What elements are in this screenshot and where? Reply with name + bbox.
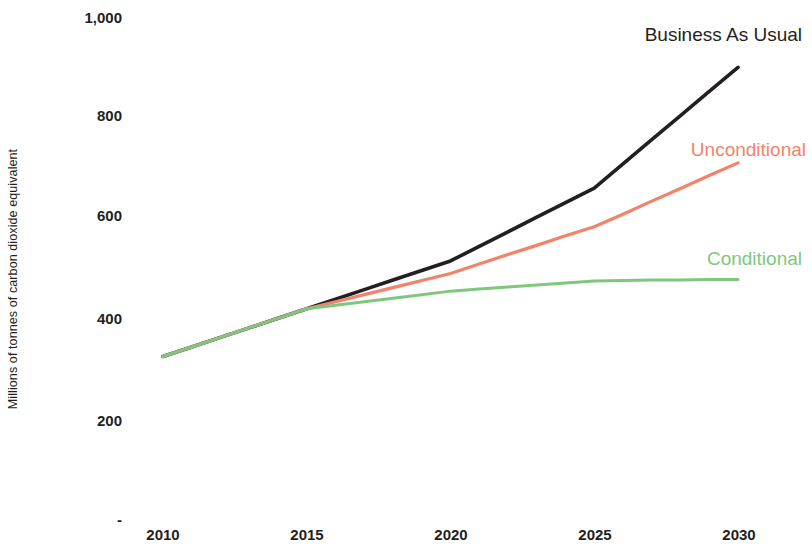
series-lines-svg bbox=[0, 0, 812, 558]
series-line-business-as-usual bbox=[163, 67, 738, 356]
emissions-line-chart: Millions of tonnes of carbon dioxide equ… bbox=[0, 0, 812, 558]
series-label-business-as-usual: Business As Usual bbox=[645, 25, 802, 44]
series-label-conditional: Conditional bbox=[707, 249, 802, 268]
series-label-unconditional: Unconditional bbox=[691, 140, 806, 159]
series-line-conditional bbox=[163, 280, 738, 357]
plot-area bbox=[0, 0, 812, 558]
